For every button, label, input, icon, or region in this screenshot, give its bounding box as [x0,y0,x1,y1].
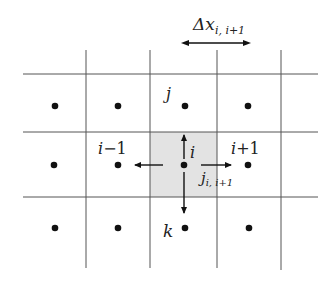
label-left-node: i−1 [98,139,127,158]
label-center-node: i [190,143,195,162]
label-bottom-node: k [163,221,173,241]
grid-diagram: Δxi, i+1 j i i−1 i+1 ji, i+1 k [0,0,334,285]
label-right-node: i+1 [231,139,260,158]
spacing-label: Δxi, i+1 [192,14,245,37]
label-top-node: j [163,84,171,103]
